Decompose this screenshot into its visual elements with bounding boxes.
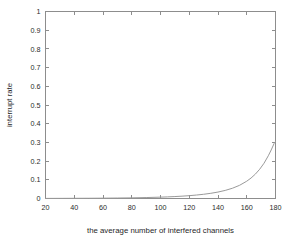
y-axis-tick-labels: 00.10.20.30.40.50.60.70.80.91 xyxy=(31,7,41,203)
y-tick-label: 0.4 xyxy=(31,119,41,128)
y-tick-label: 0.6 xyxy=(31,82,41,91)
plot-area-background xyxy=(45,11,276,199)
x-tick-label: 40 xyxy=(70,203,78,212)
y-tick-label: 0 xyxy=(37,194,41,203)
x-tick-label: 120 xyxy=(183,203,195,212)
y-axis-title: interrupt rate xyxy=(5,83,14,127)
y-tick-label: 0.1 xyxy=(31,175,41,184)
y-tick-label: 0.7 xyxy=(31,63,41,72)
x-tick-label: 140 xyxy=(212,203,224,212)
x-axis-title: the average number of interfered channel… xyxy=(87,226,234,235)
y-tick-label: 0.3 xyxy=(31,138,41,147)
interrupt-rate-line-chart: 20406080100120140160180 00.10.20.30.40.5… xyxy=(0,0,293,243)
x-tick-label: 20 xyxy=(42,203,50,212)
y-tick-label: 0.8 xyxy=(31,45,41,54)
x-axis-tick-labels: 20406080100120140160180 xyxy=(42,203,282,212)
y-tick-label: 0.2 xyxy=(31,157,41,166)
y-tick-label: 0.9 xyxy=(31,26,41,35)
y-tick-label: 0.5 xyxy=(31,101,41,110)
x-tick-label: 60 xyxy=(99,203,107,212)
x-tick-label: 160 xyxy=(241,203,253,212)
x-tick-label: 100 xyxy=(155,203,167,212)
y-tick-label: 1 xyxy=(37,7,41,16)
x-tick-label: 180 xyxy=(270,203,282,212)
x-tick-label: 80 xyxy=(128,203,136,212)
figure-canvas: 20406080100120140160180 00.10.20.30.40.5… xyxy=(0,0,293,243)
